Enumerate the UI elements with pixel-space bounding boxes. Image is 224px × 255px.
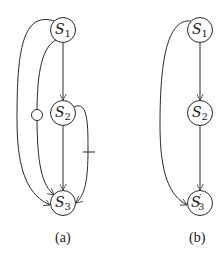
panel-a: S1 S2 S3 (a) — [17, 18, 95, 247]
node-b-s2: S2 — [188, 101, 213, 126]
panel-b: S1 S2 S′3 (b) — [160, 18, 213, 247]
node-a-s1: S1 — [51, 18, 76, 43]
edge-a-s2-s3-right — [74, 106, 88, 203]
node-a-s3: S3 — [51, 191, 76, 216]
caption-b: (b) — [189, 230, 206, 246]
diagram-canvas: S1 S2 S3 (a) S1 S2 S′3 (b) — [0, 0, 224, 255]
caption-a: (a) — [55, 230, 71, 246]
edge-b-s1-s3prime-curve — [160, 21, 191, 205]
independence-circle-mark — [32, 110, 43, 121]
node-b-s1: S1 — [188, 18, 213, 43]
node-a-s2: S2 — [51, 101, 76, 126]
node-b-s3prime: S′3 — [188, 191, 213, 216]
